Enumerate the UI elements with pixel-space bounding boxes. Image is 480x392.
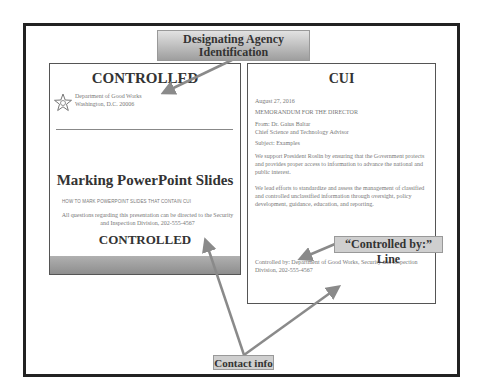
callout-designating-agency: Designating Agency Identification <box>157 30 310 61</box>
arrow-to-left-contact <box>206 242 244 355</box>
arrow-to-agency <box>165 60 232 92</box>
arrow-to-right-contact <box>244 288 337 355</box>
callout-controlled-by: “Controlled by:” Line <box>334 236 443 253</box>
arrow-to-controlled-by <box>302 244 335 258</box>
callout-agency-line2: Identification <box>158 46 309 59</box>
callout-contact-info: Contact info <box>213 355 274 370</box>
